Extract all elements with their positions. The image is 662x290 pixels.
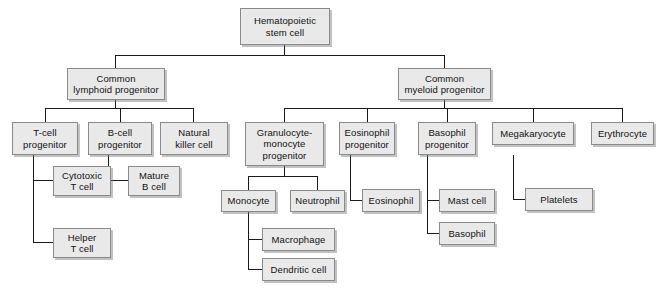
- node-cytotoxic-t-cell[interactable]: Cytotoxic T cell: [53, 166, 111, 196]
- hematopoietic-lineage-diagram: Hematopoietic stem cell Common lymphoid …: [0, 0, 662, 290]
- edge-cmp-to-gmp: [284, 108, 285, 122]
- node-t-cell-progenitor[interactable]: T-cell progenitor: [12, 122, 78, 155]
- edge-monocyte-to-macrophage: [248, 239, 262, 240]
- edge-clp-to-t-cell: [45, 108, 46, 122]
- node-granulocyte-monocyte-progenitor[interactable]: Granulocyte- monocyte progenitor: [245, 122, 324, 166]
- edge-b-cell-to-mature-b: [108, 180, 128, 181]
- edge-gmp-to-monocyte: [248, 176, 249, 190]
- edge-cmp-bar: [284, 108, 623, 109]
- edge-t-cell-spine: [33, 155, 34, 243]
- node-common-myeloid-progenitor[interactable]: Common myeloid progenitor: [398, 68, 491, 100]
- edge-root-bar: [115, 55, 445, 56]
- edge-megakaryocyte-spine: [513, 155, 514, 200]
- edge-basophil-prog-to-mast-cell: [427, 200, 439, 201]
- node-natural-killer-cell[interactable]: Natural killer cell: [160, 122, 228, 155]
- node-platelets[interactable]: Platelets: [525, 188, 593, 211]
- node-b-cell-progenitor[interactable]: B-cell progenitor: [88, 122, 152, 155]
- edge-gmp-bar: [248, 176, 318, 177]
- edge-eosinophil-prog-spine: [350, 155, 351, 201]
- node-macrophage[interactable]: Macrophage: [262, 228, 335, 251]
- node-common-lymphoid-progenitor[interactable]: Common lymphoid progenitor: [67, 68, 165, 100]
- node-monocyte[interactable]: Monocyte: [221, 190, 276, 212]
- edge-megakaryocyte-to-platelets: [513, 199, 525, 200]
- node-mast-cell[interactable]: Mast cell: [439, 189, 495, 212]
- node-hematopoietic-stem-cell[interactable]: Hematopoietic stem cell: [240, 8, 330, 45]
- node-helper-t-cell[interactable]: Helper T cell: [53, 228, 111, 258]
- edge-t-cell-to-helper: [33, 242, 53, 243]
- edge-cmp-to-basophil-prog: [447, 108, 448, 122]
- node-eosinophil-progenitor[interactable]: Eosinophil progenitor: [339, 122, 395, 155]
- node-eosinophil[interactable]: Eosinophil: [362, 189, 420, 212]
- node-basophil-progenitor[interactable]: Basophil progenitor: [418, 122, 476, 155]
- node-mature-b-cell[interactable]: Mature B cell: [128, 166, 180, 196]
- edge-t-cell-to-cytotoxic: [33, 180, 53, 181]
- edge-to-common-myeloid: [444, 55, 445, 68]
- edge-monocyte-spine: [248, 212, 249, 270]
- node-erythrocyte[interactable]: Erythrocyte: [591, 122, 654, 145]
- node-basophil[interactable]: Basophil: [439, 222, 495, 245]
- edge-cmp-to-erythrocyte: [622, 108, 623, 122]
- edge-eosinophil-prog-to-eosinophil: [350, 200, 362, 201]
- edge-cmp-to-megakaryocyte: [533, 108, 534, 122]
- edge-gmp-to-neutrophil: [317, 176, 318, 190]
- node-dendritic-cell[interactable]: Dendritic cell: [262, 258, 335, 281]
- edge-basophil-prog-to-basophil: [427, 233, 439, 234]
- edge-clp-to-b-cell: [120, 108, 121, 122]
- edge-monocyte-to-dendritic: [248, 269, 262, 270]
- edge-clp-to-nk-cell: [193, 108, 194, 122]
- edge-cmp-to-eosinophil-prog: [367, 108, 368, 122]
- node-megakaryocyte[interactable]: Megakaryocyte: [492, 122, 574, 145]
- edge-to-common-lymphoid: [115, 55, 116, 68]
- node-neutrophil[interactable]: Neutrophil: [290, 190, 345, 212]
- edge-basophil-prog-spine: [427, 155, 428, 234]
